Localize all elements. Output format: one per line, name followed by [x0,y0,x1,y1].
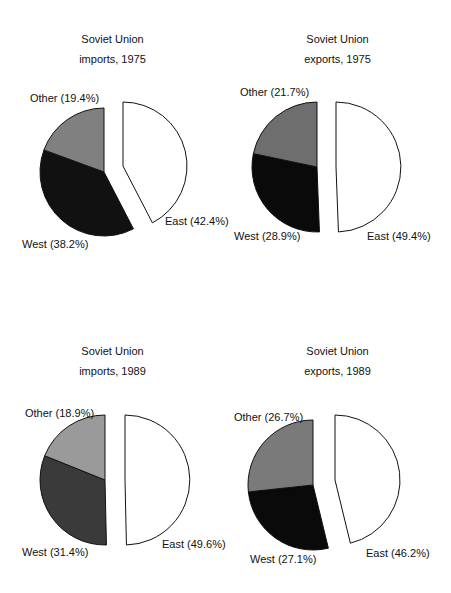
pie-slice-west [248,485,328,550]
label-west: West (31.4%) [22,546,88,558]
pie-slice-east [336,102,401,232]
chart-exports-1989: Soviet Union exports, 1989 Other (26.7%)… [225,296,450,592]
chart-exports-1975: Soviet Union exports, 1975 Other (21.7%)… [225,0,450,296]
label-other: Other (18.9%) [25,407,94,419]
label-west: West (38.2%) [22,238,88,250]
pie-slice-east [335,415,400,543]
label-west: West (28.9%) [234,230,300,242]
pie-slice-east [123,102,187,223]
label-east: East (49.6%) [162,538,226,550]
label-east: East (46.2%) [366,547,430,559]
label-west: West (27.1%) [250,553,316,565]
label-east: East (42.4%) [165,215,229,227]
pie-slice-other [248,420,313,492]
pie-chart [225,0,451,296]
chart-imports-1975: Soviet Union imports, 1975 Other (19.4%)… [0,0,225,296]
pie-chart [0,0,225,296]
label-other: Other (26.7%) [234,411,303,423]
label-other: Other (21.7%) [240,86,309,98]
chart-imports-1989: Soviet Union imports, 1989 Other (18.9%)… [0,296,225,592]
label-east: East (49.4%) [367,230,431,242]
pie-slice-east [125,415,190,545]
label-other: Other (19.4%) [30,92,99,104]
